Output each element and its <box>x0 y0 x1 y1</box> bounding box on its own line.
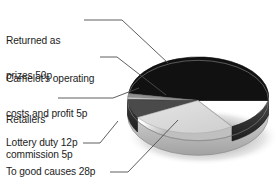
pie-slice-returned-as-prizes <box>129 57 269 101</box>
label-retailers-commission-line1: Retailers' <box>6 114 73 126</box>
label-returned-as-prizes-line1: Returned as <box>6 35 60 47</box>
label-to-good-causes: To good causes 28p <box>6 166 95 178</box>
leader-line-prizes <box>84 20 168 63</box>
label-camelot-costs-line1: Camelot's operating <box>6 73 94 85</box>
label-lottery-duty: Lottery duty 12p <box>6 137 77 149</box>
label-retailers-commission-line2: commission 5p <box>6 149 73 161</box>
pie-chart-figure: Returned as prizes 50p Camelot's operati… <box>0 0 279 185</box>
